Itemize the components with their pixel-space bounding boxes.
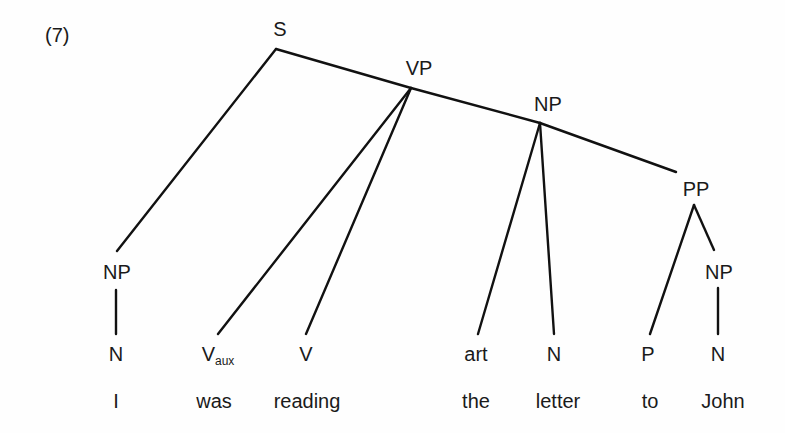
node-pp: PP	[683, 179, 710, 199]
branch-vp-np	[411, 88, 540, 123]
word-2: was	[196, 391, 232, 411]
branch-np-art	[478, 123, 540, 334]
node-vp: VP	[406, 58, 433, 78]
branch-s-np	[117, 49, 276, 251]
v-aux-subscript: aux	[215, 354, 234, 368]
node-n-subject: N	[109, 344, 123, 364]
branch-pp-p	[650, 205, 694, 334]
branch-vp-v	[306, 88, 411, 334]
word-3: reading	[274, 391, 341, 411]
node-v-aux: Vaux	[202, 344, 235, 367]
node-np-subject: NP	[103, 262, 131, 282]
branch-pp-np	[694, 205, 714, 250]
word-4: the	[462, 391, 490, 411]
branch-vp-vaux	[218, 88, 411, 334]
node-v-main: V	[299, 344, 312, 364]
node-n-pp-object: N	[711, 344, 725, 364]
word-6: to	[642, 391, 659, 411]
node-p: P	[641, 344, 654, 364]
word-5: letter	[536, 391, 580, 411]
word-1: I	[113, 391, 119, 411]
tree-branches	[0, 0, 785, 433]
word-7: John	[701, 391, 744, 411]
node-art: art	[464, 344, 487, 364]
v-aux-label: V	[202, 343, 215, 365]
branch-np-n-object	[540, 123, 554, 334]
node-s: S	[273, 19, 286, 39]
node-np-object: NP	[534, 94, 562, 114]
syntax-tree-diagram: (7) S VP NP PP NP NP N Vaux V art N P N …	[0, 0, 785, 433]
node-n-object: N	[547, 344, 561, 364]
node-np-pp-object: NP	[705, 262, 733, 282]
branch-s-vp	[276, 49, 411, 88]
branch-np-pp	[540, 123, 676, 172]
